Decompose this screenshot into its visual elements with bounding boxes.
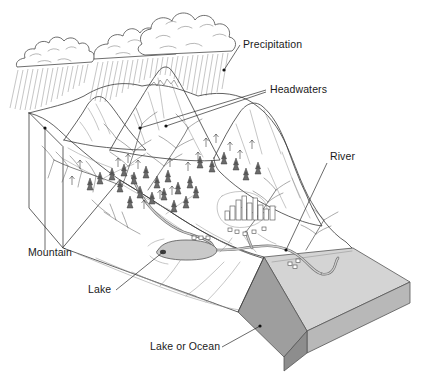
label-headwaters: Headwaters (270, 83, 327, 95)
cloud-left (16, 37, 94, 67)
city-buildings (225, 196, 275, 220)
slope-contours (78, 252, 240, 310)
label-lake-or-ocean: Lake or Ocean (150, 340, 220, 352)
leader-lake (116, 252, 163, 290)
tree-symbol (87, 152, 261, 212)
watershed-illustration: Precipitation Headwaters River Mountain … (0, 0, 427, 379)
leader-river (284, 163, 327, 252)
watershed-diagram: Precipitation Headwaters River Mountain … (0, 0, 427, 379)
rain-main (90, 53, 228, 102)
label-mountain: Mountain (28, 246, 72, 258)
cloud-main (138, 13, 235, 55)
label-river: River (330, 150, 355, 162)
clouds-group (16, 13, 235, 67)
leader-mountain (43, 126, 46, 250)
lake-feature (148, 239, 217, 264)
rain-left (10, 64, 88, 110)
ocean-slab (238, 248, 410, 371)
terrain-block (29, 84, 410, 371)
forest-group (70, 134, 262, 212)
label-lake: Lake (88, 283, 111, 295)
label-precipitation: Precipitation (243, 38, 302, 50)
